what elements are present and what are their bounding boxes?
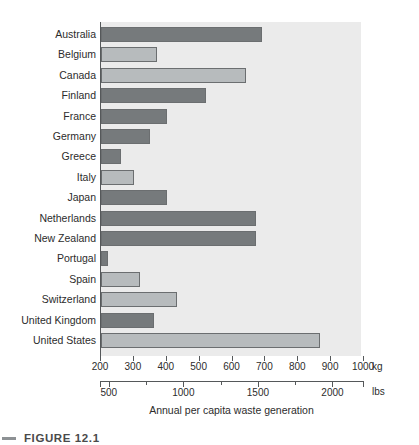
category-label: France [2, 109, 96, 124]
category-label: United Kingdom [2, 313, 96, 328]
category-label: Finland [2, 88, 96, 103]
bar [101, 272, 140, 287]
bar-row [101, 109, 361, 124]
bar-row [101, 68, 361, 83]
x-axis-lbs-unit-label: lbs [372, 386, 385, 397]
category-label: New Zealand [2, 231, 96, 246]
category-label: Portugal [2, 251, 96, 266]
bar [101, 313, 154, 328]
category-label: Japan [2, 190, 96, 205]
category-label: Netherlands [2, 211, 96, 226]
chart-plot-area [100, 22, 361, 356]
x-tick-label-lbs: 1000 [161, 387, 205, 398]
waste-generation-figure: AustraliaBelgiumCanadaFinlandFranceGerma… [0, 0, 419, 445]
bar-row [101, 170, 361, 185]
bar-row [101, 272, 361, 287]
x-tick-label-lbs: 500 [87, 387, 131, 398]
category-label: Germany [2, 129, 96, 144]
category-label: Switzerland [2, 292, 96, 307]
x-axis-title: Annual per capita waste generation [100, 404, 363, 416]
bar-row [101, 251, 361, 266]
bar [101, 27, 262, 42]
category-label: Spain [2, 272, 96, 287]
category-label: Italy [2, 170, 96, 185]
bar [101, 88, 206, 103]
category-label: Greece [2, 149, 96, 164]
x-minor-tick-lbs [221, 382, 222, 385]
category-axis-labels: AustraliaBelgiumCanadaFinlandFranceGerma… [0, 22, 96, 356]
figure-caption: FIGURE 12.1 [0, 432, 419, 445]
category-label: Canada [2, 68, 96, 83]
bar [101, 170, 134, 185]
figure-caption-text: FIGURE 12.1 [24, 432, 100, 444]
bar [101, 251, 108, 266]
bar-row [101, 27, 361, 42]
bar [101, 149, 121, 164]
bar-row [101, 129, 361, 144]
bar-row [101, 292, 361, 307]
bar-row [101, 333, 361, 348]
bar [101, 292, 177, 307]
bar-row [101, 88, 361, 103]
bar [101, 211, 256, 226]
category-label: Australia [2, 27, 96, 42]
x-tick-label-lbs: 1500 [236, 387, 280, 398]
caption-rule-icon [2, 437, 16, 440]
bar [101, 47, 157, 62]
x-minor-tick-lbs [295, 382, 296, 385]
category-label: Belgium [2, 47, 96, 62]
x-axis-lbs: 500100015002000 [100, 381, 363, 404]
bar [101, 333, 320, 348]
bar-row [101, 313, 361, 328]
bar-row [101, 149, 361, 164]
x-axis-kg: 2003004005006007008009001000 [100, 356, 363, 378]
bar [101, 109, 167, 124]
bar-row [101, 190, 361, 205]
x-minor-tick-lbs [146, 382, 147, 385]
bar-row [101, 231, 361, 246]
bar-row [101, 47, 361, 62]
bar [101, 190, 167, 205]
category-label: United States [2, 333, 96, 348]
x-tick-label-lbs: 2000 [310, 387, 354, 398]
bar [101, 68, 246, 83]
bar [101, 129, 150, 144]
bar-row [101, 211, 361, 226]
x-axis-kg-unit-label: kg [372, 361, 383, 372]
x-axis-lbs-endcap [363, 381, 364, 387]
bar [101, 231, 256, 246]
